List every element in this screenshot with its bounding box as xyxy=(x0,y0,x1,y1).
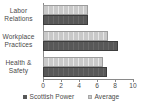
legend-label-scottish-power: Scottish Power xyxy=(30,93,75,101)
bar-scottish-power-workplace-practices xyxy=(43,41,118,51)
x-axis-tick-label: 10 xyxy=(125,82,141,90)
legend-swatch-average-icon xyxy=(88,95,92,99)
legend-swatch-scottish-power-icon xyxy=(23,95,27,99)
bar-group-health-and-safety xyxy=(43,55,133,79)
category-label-line: Practices xyxy=(0,41,39,49)
category-label-health-and-safety: Health & Safety xyxy=(0,59,39,76)
plot-area xyxy=(43,3,133,79)
chart-legend: Scottish Power Average xyxy=(0,93,146,104)
bar-chart: Labor Relations Workplace Practices Heal… xyxy=(0,0,146,105)
legend-item-scottish-power: Scottish Power xyxy=(23,93,74,101)
bar-scottish-power-health-and-safety xyxy=(43,67,107,77)
x-axis-line xyxy=(43,79,134,80)
category-label-line: Health & xyxy=(0,59,39,67)
bar-group-labor-relations xyxy=(43,3,133,28)
legend-label-average: Average xyxy=(95,93,120,101)
x-axis-tick-label: 6 xyxy=(89,82,105,90)
bar-average-workplace-practices xyxy=(43,31,108,41)
category-label-line: Labor xyxy=(0,7,39,15)
legend-item-average: Average xyxy=(88,93,119,101)
x-axis-tick-label: 4 xyxy=(71,82,87,90)
bar-group-workplace-practices xyxy=(43,29,133,54)
bar-average-labor-relations xyxy=(43,5,88,15)
x-axis-tick-label: 8 xyxy=(107,82,123,90)
category-label-labor-relations: Labor Relations xyxy=(0,7,39,24)
category-label-line: Workplace xyxy=(0,33,39,41)
x-axis-tick-label: 0 xyxy=(35,82,51,90)
category-label-workplace-practices: Workplace Practices xyxy=(0,33,39,50)
bar-average-health-and-safety xyxy=(43,57,103,67)
bar-scottish-power-labor-relations xyxy=(43,15,88,25)
category-label-line: Relations xyxy=(0,15,39,23)
category-label-line: Safety xyxy=(0,67,39,75)
x-axis-tick-label: 2 xyxy=(53,82,69,90)
